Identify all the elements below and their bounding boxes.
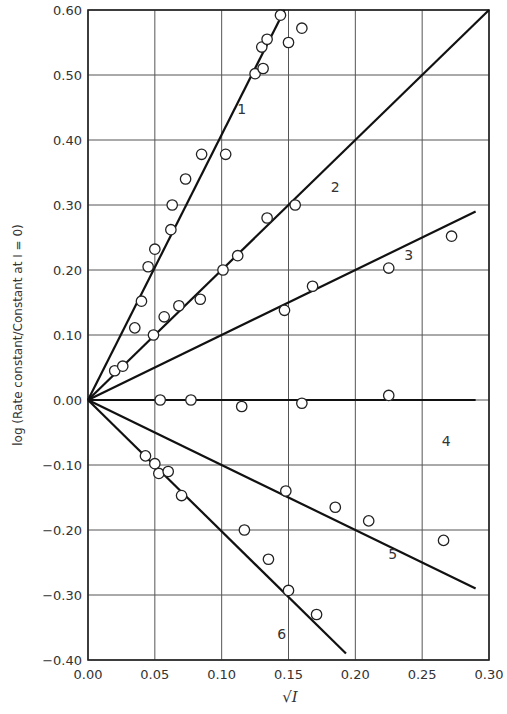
- data-point-series-3: [307, 281, 317, 291]
- data-point-series-6: [283, 585, 293, 595]
- y-tick-label: −0.30: [42, 588, 82, 603]
- y-tick-label: 0.60: [53, 3, 82, 18]
- fit-line-6: [88, 400, 346, 654]
- line-label-6: 6: [277, 626, 286, 642]
- y-tick-label: 0.40: [53, 133, 82, 148]
- data-point-series-1: [275, 10, 285, 20]
- data-point-series-1: [196, 149, 206, 159]
- data-point-series-1: [167, 200, 177, 210]
- data-point-series-4: [237, 401, 247, 411]
- y-tick-label: 0.00: [53, 393, 82, 408]
- data-point-series-4: [186, 395, 196, 405]
- x-axis-label: √I: [282, 688, 299, 706]
- x-tick-label: 0.05: [140, 667, 169, 682]
- line-label-1: 1: [237, 101, 246, 117]
- data-point-series-5: [438, 535, 448, 545]
- data-point-series-5: [330, 502, 340, 512]
- x-tick-label: 0.00: [74, 667, 103, 682]
- data-point-series-4: [384, 390, 394, 400]
- y-tick-label: −0.40: [42, 653, 82, 668]
- data-point-series-2: [148, 330, 158, 340]
- x-axis-ticks: 0.000.050.100.150.200.250.30: [74, 667, 504, 682]
- data-point-series-6: [176, 490, 186, 500]
- data-point-series-2: [118, 361, 128, 371]
- data-point-series-2: [174, 301, 184, 311]
- data-point-series-1: [297, 23, 307, 33]
- data-point-series-6: [263, 554, 273, 564]
- x-tick-label: 0.30: [475, 667, 504, 682]
- data-point-series-6: [150, 459, 160, 469]
- data-point-series-1: [262, 34, 272, 44]
- data-point-series-1: [283, 37, 293, 47]
- chart-canvas: 123456 0.600.500.400.300.200.100.00−0.10…: [0, 0, 507, 714]
- line-label-2: 2: [331, 179, 340, 195]
- data-point-series-6: [154, 468, 164, 478]
- data-point-series-1: [150, 244, 160, 254]
- data-point-series-6: [140, 451, 150, 461]
- x-tick-label: 0.15: [274, 667, 303, 682]
- y-axis-label: log (Rate constant/Constant at I = 0): [11, 224, 25, 446]
- data-point-series-3: [446, 231, 456, 241]
- data-point-series-1: [136, 296, 146, 306]
- data-point-series-5: [364, 516, 374, 526]
- data-point-series-6: [311, 609, 321, 619]
- data-point-series-2: [290, 200, 300, 210]
- data-point-series-1: [130, 323, 140, 333]
- data-point-series-4: [297, 398, 307, 408]
- data-point-series-3: [384, 263, 394, 273]
- line-label-4: 4: [442, 433, 451, 449]
- data-point-series-4: [155, 395, 165, 405]
- y-tick-label: 0.30: [53, 198, 82, 213]
- y-tick-label: 0.50: [53, 68, 82, 83]
- data-point-series-6: [239, 525, 249, 535]
- data-point-series-2: [159, 312, 169, 322]
- y-tick-label: −0.20: [42, 523, 82, 538]
- data-point-series-1: [166, 225, 176, 235]
- y-tick-label: 0.20: [53, 263, 82, 278]
- data-point-series-6: [163, 466, 173, 476]
- y-tick-label: 0.10: [53, 328, 82, 343]
- x-tick-label: 0.20: [341, 667, 370, 682]
- data-point-series-1: [143, 262, 153, 272]
- data-point-series-2: [262, 213, 272, 223]
- data-point-series-1: [220, 149, 230, 159]
- data-point-series-2: [218, 265, 228, 275]
- y-tick-label: −0.10: [42, 458, 82, 473]
- data-point-series-1: [180, 174, 190, 184]
- y-axis-ticks: 0.600.500.400.300.200.100.00−0.10−0.20−0…: [42, 3, 82, 668]
- line-label-3: 3: [404, 247, 413, 263]
- data-point-series-2: [195, 294, 205, 304]
- data-point-series-2: [233, 251, 243, 261]
- data-point-series-5: [281, 486, 291, 496]
- line-label-5: 5: [388, 546, 397, 562]
- x-tick-label: 0.25: [408, 667, 437, 682]
- data-point-series-1: [258, 63, 268, 73]
- data-points: [110, 10, 457, 620]
- data-point-series-3: [279, 305, 289, 315]
- x-tick-label: 0.10: [207, 667, 236, 682]
